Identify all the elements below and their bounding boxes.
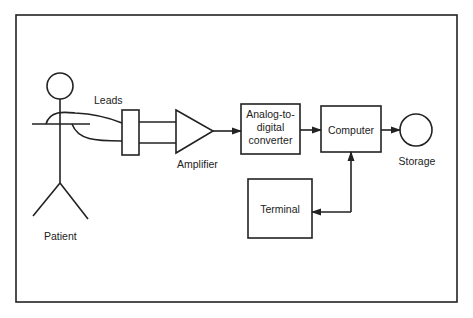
computer-label: Computer [328, 124, 375, 136]
amplifier-symbol [176, 110, 213, 153]
leads-label: Leads [94, 94, 123, 106]
adc-label-line3: converter [249, 134, 293, 146]
lead-wire-lower [72, 124, 122, 141]
ecg-system-diagram: Leads Amplifier Patient Analog-to- digit… [0, 0, 473, 318]
patient-head [47, 73, 73, 99]
lead-wire-upper [46, 112, 122, 124]
adc-label-line1: Analog-to- [246, 108, 295, 120]
storage-label: Storage [399, 155, 436, 167]
terminal-label: Terminal [260, 203, 300, 215]
patient-label: Patient [44, 230, 77, 242]
lead-connector [122, 110, 139, 155]
outer-frame [16, 15, 457, 302]
adc-label-line2: digital [257, 121, 284, 133]
amplifier-label: Amplifier [177, 158, 218, 170]
storage-circle [400, 114, 432, 146]
patient-figure [32, 73, 90, 219]
patient-right-leg [60, 183, 88, 219]
patient-left-leg [33, 183, 60, 216]
